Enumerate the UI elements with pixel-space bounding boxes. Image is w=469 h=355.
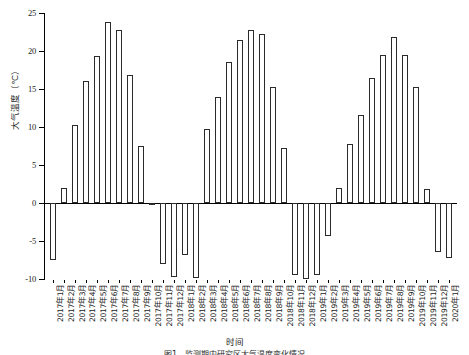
x-tick-mark: [262, 280, 263, 283]
x-tick-mark: [449, 280, 450, 283]
bar: [402, 55, 408, 203]
y-tick-label: 5: [0, 161, 36, 170]
x-tick-mark: [394, 280, 395, 283]
x-tick-label: 2019年1月: [320, 284, 328, 322]
x-tick-label: 2018年3月: [210, 284, 218, 322]
x-tick-mark: [438, 280, 439, 283]
x-tick-mark: [185, 280, 186, 283]
x-tick-label: 2017年5月: [100, 284, 108, 322]
x-tick-label: 2018年10月: [287, 284, 295, 327]
bar: [314, 203, 320, 275]
x-tick-mark: [196, 280, 197, 283]
bar: [171, 203, 177, 277]
x-tick-label: 2017年11月: [166, 284, 174, 327]
x-tick-label: 2019年9月: [408, 284, 416, 322]
x-axis-title: 时间: [0, 335, 469, 347]
y-tick-mark: [39, 241, 44, 242]
x-tick-label: 2019年7月: [386, 284, 394, 322]
bar: [303, 203, 309, 279]
x-tick-mark: [64, 280, 65, 283]
y-tick-mark: [39, 13, 44, 14]
bar: [259, 34, 265, 203]
x-tick-mark: [372, 280, 373, 283]
y-tick-mark: [39, 203, 44, 204]
x-tick-mark: [141, 280, 142, 283]
x-tick-mark: [218, 280, 219, 283]
bar: [204, 129, 210, 203]
x-tick-mark: [295, 280, 296, 283]
x-tick-label: 2018年6月: [243, 284, 251, 322]
x-tick-mark: [240, 280, 241, 283]
bar: [424, 189, 430, 203]
figure-container: -10-50510152025 2017年1月2017年2月2017年3月201…: [0, 0, 469, 355]
bar: [72, 125, 78, 203]
x-tick-mark: [306, 280, 307, 283]
y-tick-mark: [39, 51, 44, 52]
x-tick-mark: [427, 280, 428, 283]
bar: [248, 30, 254, 203]
x-tick-mark: [229, 280, 230, 283]
bar: [226, 62, 232, 203]
y-axis-title: 大气温度（℃）: [8, 38, 20, 158]
bar: [138, 146, 144, 203]
x-tick-label: 2019年12月: [441, 284, 449, 327]
x-tick-label: 2019年3月: [342, 284, 350, 322]
y-tick-mark: [39, 279, 44, 280]
y-axis-line: [44, 13, 45, 280]
x-tick-mark: [339, 280, 340, 283]
bar: [292, 203, 298, 275]
bar: [160, 203, 166, 264]
x-tick-label: 2017年4月: [89, 284, 97, 322]
bar: [50, 203, 56, 260]
bar: [116, 30, 122, 203]
bar: [325, 203, 331, 236]
x-tick-mark: [130, 280, 131, 283]
x-tick-label: 2019年4月: [353, 284, 361, 322]
x-tick-mark: [317, 280, 318, 283]
x-tick-label: 2019年8月: [397, 284, 405, 322]
bar: [94, 56, 100, 203]
x-tick-mark: [174, 280, 175, 283]
x-tick-label: 2017年7月: [122, 284, 130, 322]
x-tick-label: 2018年2月: [199, 284, 207, 322]
bar: [336, 188, 342, 203]
x-tick-label: 2018年4月: [221, 284, 229, 322]
bar: [182, 203, 188, 255]
x-axis-zero-line: [44, 203, 457, 204]
bar: [347, 144, 353, 203]
x-tick-label: 2019年6月: [375, 284, 383, 322]
bar: [127, 75, 133, 203]
bar: [413, 87, 419, 203]
y-tick-mark: [39, 89, 44, 90]
x-tick-mark: [119, 280, 120, 283]
bar: [83, 81, 89, 203]
x-tick-mark: [328, 280, 329, 283]
y-tick-mark: [39, 127, 44, 128]
bar: [61, 188, 67, 203]
x-tick-label: 2017年9月: [144, 284, 152, 322]
x-tick-label: 2018年12月: [309, 284, 317, 327]
x-tick-mark: [75, 280, 76, 283]
bar: [380, 55, 386, 203]
x-tick-label: 2017年12月: [177, 284, 185, 327]
x-tick-mark: [416, 280, 417, 283]
x-tick-mark: [152, 280, 153, 283]
x-tick-label: 2017年10月: [155, 284, 163, 327]
bar: [369, 78, 375, 203]
x-tick-mark: [86, 280, 87, 283]
y-tick-label: -5: [0, 237, 36, 246]
x-tick-label: 2018年9月: [276, 284, 284, 322]
x-tick-label: 2017年3月: [79, 284, 87, 322]
x-tick-label: 2018年5月: [232, 284, 240, 322]
x-tick-mark: [361, 280, 362, 283]
bar: [105, 22, 111, 203]
x-tick-label: 2019年2月: [331, 284, 339, 322]
x-tick-label: 2018年8月: [265, 284, 273, 322]
x-tick-mark: [405, 280, 406, 283]
x-tick-label: 2019年10月: [419, 284, 427, 327]
x-tick-mark: [273, 280, 274, 283]
x-tick-mark: [97, 280, 98, 283]
bar: [215, 97, 221, 203]
x-tick-mark: [251, 280, 252, 283]
bar: [193, 203, 199, 278]
